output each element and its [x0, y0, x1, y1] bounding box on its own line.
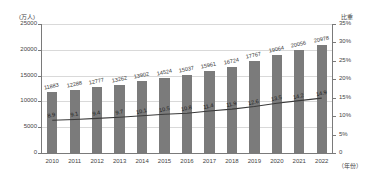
y-axis-tick-label: 20000 [5, 46, 37, 52]
y-axis-tick-mark [38, 76, 41, 77]
x-axis-tick-label: 2014 [131, 158, 153, 164]
x-axis-tick-label: 2020 [266, 158, 288, 164]
y2-axis-tick-mark [333, 135, 336, 136]
y-axis-tick-mark [38, 24, 41, 25]
y2-axis-tick-mark [333, 61, 336, 62]
y2-axis-tick-label: 5% [339, 131, 369, 137]
x-axis-tick-label: 2013 [109, 158, 131, 164]
y-axis-tick-label: 25000 [5, 20, 37, 26]
x-axis-tick-label: 2017 [198, 158, 220, 164]
x-axis-tick-label: 2012 [86, 158, 108, 164]
y-axis-tick-label: 5000 [5, 123, 37, 129]
y2-axis-tick-label: 20% [339, 75, 369, 81]
y-axis-tick-label: 0 [5, 149, 37, 155]
y-axis-tick-mark [38, 101, 41, 102]
x-axis-tick-label: 2016 [176, 158, 198, 164]
y-axis-tick-mark [38, 127, 41, 128]
y2-axis-tick-mark [333, 98, 336, 99]
y2-axis-tick-label: 30% [339, 38, 369, 44]
trend-line [41, 24, 333, 154]
y-axis-tick-label: 10000 [5, 97, 37, 103]
y2-axis-tick-label: 0 [339, 149, 369, 155]
y2-axis-tick-mark [333, 79, 336, 80]
y2-axis-tick-label: 15% [339, 94, 369, 100]
y2-axis-tick-label: 10% [339, 112, 369, 118]
plot-area: 1188312288127771326213902145241503715961… [41, 24, 333, 153]
x-axis-tick-label: 2010 [41, 158, 63, 164]
y2-axis-tick-mark [333, 116, 336, 117]
x-axis-tick-label: 2018 [221, 158, 243, 164]
y2-axis-tick-mark [333, 153, 336, 154]
y-axis-tick-label: 15000 [5, 72, 37, 78]
chart-container: (万人) 比重 （年份） 118831228812777132621390214… [0, 0, 372, 181]
y-axis-line [41, 24, 42, 154]
x-axis-tick-label: 2021 [288, 158, 310, 164]
y2-axis-tick-mark [333, 42, 336, 43]
x-axis-tick-label: 2011 [64, 158, 86, 164]
x-axis-tick-label: 2019 [243, 158, 265, 164]
y2-axis-tick-mark [333, 24, 336, 25]
y2-axis-tick-label: 35% [339, 20, 369, 26]
x-axis-tick-label: 2022 [311, 158, 333, 164]
y-axis-tick-mark [38, 153, 41, 154]
x-axis-tick-label: 2015 [154, 158, 176, 164]
y2-axis-tick-label: 25% [339, 57, 369, 63]
x-axis-line [41, 153, 333, 154]
y-axis-tick-mark [38, 50, 41, 51]
x-axis-unit-label: （年份） [338, 161, 362, 170]
